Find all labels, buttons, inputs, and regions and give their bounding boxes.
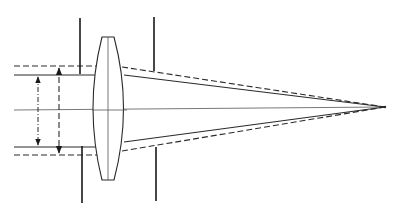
solid-beam-lower-converging [124, 107, 385, 142]
focal-point [384, 106, 386, 108]
lens-ray-diagram [0, 0, 395, 217]
dashed-beam-upper-converging [122, 67, 385, 107]
dashed-beam-lower-converging [122, 107, 385, 151]
solid-beam-upper-converging [124, 75, 385, 107]
optical-axis [14, 107, 385, 110]
